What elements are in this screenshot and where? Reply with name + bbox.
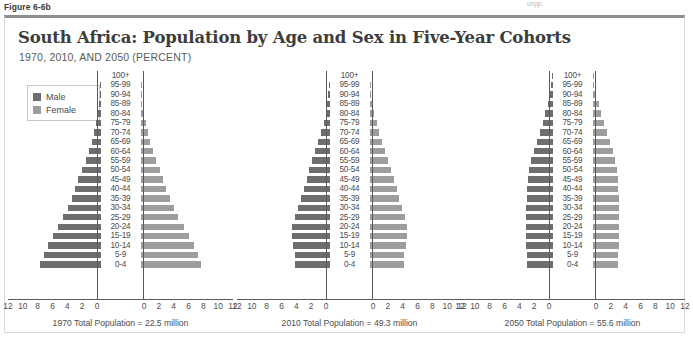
age-cohort-label: 25-29 xyxy=(330,213,370,222)
female-half xyxy=(370,203,459,212)
cohort-row: 15-19 xyxy=(8,231,233,240)
cohort-row: 90-94 xyxy=(237,90,462,99)
x-tick-label: 10 xyxy=(18,301,27,311)
male-half xyxy=(241,109,330,118)
cohort-row: 50-54 xyxy=(8,165,233,174)
male-bar xyxy=(551,82,552,88)
age-cohort-label: 100+ xyxy=(330,71,370,80)
male-half xyxy=(464,80,553,89)
cohort-row: 40-44 xyxy=(237,184,462,193)
x-tick-label: 2 xyxy=(309,301,314,311)
male-bar xyxy=(86,157,101,163)
cohort-row: 45-49 xyxy=(460,175,685,184)
male-bar xyxy=(58,224,100,230)
x-tick-label: 10 xyxy=(247,301,256,311)
panel-caption: 1970 Total Population = 22.5 million xyxy=(8,318,233,328)
male-half xyxy=(464,222,553,231)
x-tick-label: 4 xyxy=(400,301,405,311)
age-cohort-label: 60-64 xyxy=(330,147,370,156)
center-axis-line-left xyxy=(549,71,550,299)
male-bar xyxy=(40,261,100,267)
male-half xyxy=(241,137,330,146)
age-cohort-label: 65-69 xyxy=(330,137,370,146)
male-half xyxy=(12,203,101,212)
male-half xyxy=(241,194,330,203)
age-cohort-label: 90-94 xyxy=(101,90,141,99)
cohort-row: 25-29 xyxy=(8,213,233,222)
cohort-row: 35-39 xyxy=(8,194,233,203)
female-bar xyxy=(141,252,198,258)
female-half xyxy=(141,71,230,80)
age-cohort-label: 70-74 xyxy=(330,128,370,137)
female-bar xyxy=(141,195,171,201)
female-half xyxy=(370,213,459,222)
age-cohort-label: 5-9 xyxy=(553,250,593,259)
male-half xyxy=(12,184,101,193)
age-cohort-label: 35-39 xyxy=(553,194,593,203)
cohort-row: 10-14 xyxy=(460,241,685,250)
female-bar xyxy=(370,205,403,211)
male-half xyxy=(12,231,101,240)
female-bar xyxy=(141,233,189,239)
cohort-row: 85-89 xyxy=(8,99,233,108)
x-tick-label: 0 xyxy=(142,301,147,311)
female-half xyxy=(370,260,459,269)
female-half xyxy=(370,90,459,99)
female-half xyxy=(141,109,230,118)
age-cohort-label: 0-4 xyxy=(553,260,593,269)
female-half xyxy=(370,241,459,250)
center-axis-line-right xyxy=(372,71,373,299)
x-axis-baseline xyxy=(237,299,462,300)
age-cohort-label: 55-59 xyxy=(553,156,593,165)
male-half xyxy=(241,260,330,269)
male-half xyxy=(12,137,101,146)
male-half xyxy=(12,156,101,165)
male-bar xyxy=(550,91,553,97)
male-half xyxy=(464,165,553,174)
age-cohort-label: 90-94 xyxy=(553,90,593,99)
cohort-row: 5-9 xyxy=(460,250,685,259)
age-cohort-label: 0-4 xyxy=(330,260,370,269)
x-tick-label: 6 xyxy=(186,301,191,311)
male-half xyxy=(464,90,553,99)
cohort-row: 0-4 xyxy=(8,260,233,269)
x-tick-label: 0 xyxy=(95,301,100,311)
figure-page: Figure 6-6b unpp. South Africa: Populati… xyxy=(0,0,693,339)
male-half xyxy=(241,184,330,193)
pyramid-2050: 100+95-9990-9485-8980-8475-7970-7465-696… xyxy=(460,71,685,330)
age-cohort-label: 95-99 xyxy=(101,80,141,89)
male-bar xyxy=(298,205,330,211)
female-half xyxy=(141,90,230,99)
x-tick-label: 6 xyxy=(638,301,643,311)
age-cohort-label: 45-49 xyxy=(330,175,370,184)
cohort-row: 100+ xyxy=(460,71,685,80)
female-half xyxy=(141,194,230,203)
male-half xyxy=(464,118,553,127)
male-half xyxy=(12,194,101,203)
x-tick-label: 2 xyxy=(532,301,537,311)
male-half xyxy=(241,147,330,156)
female-bar xyxy=(593,261,619,267)
age-cohort-label: 80-84 xyxy=(330,109,370,118)
cohort-row: 5-9 xyxy=(8,250,233,259)
male-half xyxy=(464,194,553,203)
cohort-row: 75-79 xyxy=(237,118,462,127)
cohort-row: 70-74 xyxy=(460,128,685,137)
cohort-row: 55-59 xyxy=(460,156,685,165)
cohort-row: 30-34 xyxy=(237,203,462,212)
age-cohort-label: 10-14 xyxy=(330,241,370,250)
x-tick-label: 4 xyxy=(294,301,299,311)
male-bar xyxy=(89,148,101,154)
age-cohort-label: 80-84 xyxy=(101,109,141,118)
cohort-row: 45-49 xyxy=(237,175,462,184)
female-half xyxy=(370,175,459,184)
male-half xyxy=(12,80,101,89)
female-half xyxy=(370,156,459,165)
male-bar xyxy=(44,252,100,258)
female-bar xyxy=(370,186,397,192)
age-cohort-label: 50-54 xyxy=(553,165,593,174)
x-tick-label: 8 xyxy=(487,301,492,311)
x-tick-label: 10 xyxy=(442,301,451,311)
female-half xyxy=(370,231,459,240)
male-bar xyxy=(63,214,100,220)
